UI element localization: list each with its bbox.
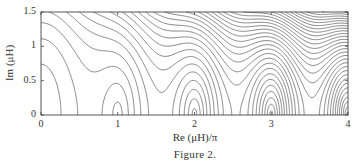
x-tick-4: 4 <box>346 119 351 129</box>
figure-caption: Figure 2. <box>174 148 216 160</box>
y-tick-1: 1 <box>16 40 36 50</box>
x-tick-0: 0 <box>39 119 44 129</box>
contour-figure: 0 1 2 3 4 0 0.5 1 1.5 Re (μH)/π Im (μH) … <box>0 0 355 165</box>
x-tick-3: 3 <box>269 119 274 129</box>
y-axis-label: Im (μH) <box>3 45 15 81</box>
contour-lines <box>41 12 348 115</box>
x-axis-label: Re (μH)/π <box>173 131 218 143</box>
x-tick-1: 1 <box>115 119 120 129</box>
y-tick-0: 0 <box>16 109 36 119</box>
y-tick-1-5: 1.5 <box>16 6 36 16</box>
contour-path <box>41 12 348 115</box>
y-tick-0-5: 0.5 <box>16 75 36 85</box>
x-tick-2: 2 <box>192 119 197 129</box>
